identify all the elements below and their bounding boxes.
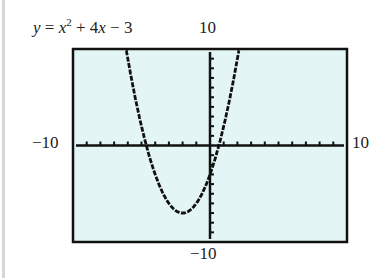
graph-screen bbox=[0, 0, 388, 278]
